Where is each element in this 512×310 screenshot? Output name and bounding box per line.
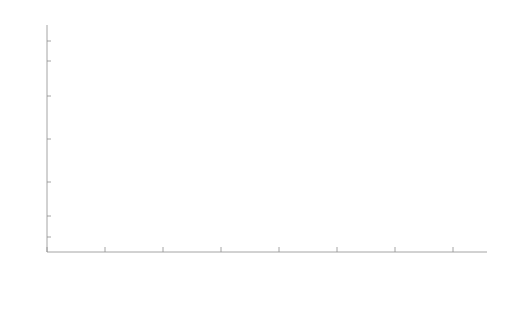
- normal-probability-plot: [0, 0, 512, 272]
- y-tick-group: [47, 41, 51, 237]
- figure-container: [0, 0, 512, 310]
- x-axis: [47, 247, 487, 252]
- y-axis: [47, 25, 51, 252]
- x-tick-group: [47, 247, 453, 252]
